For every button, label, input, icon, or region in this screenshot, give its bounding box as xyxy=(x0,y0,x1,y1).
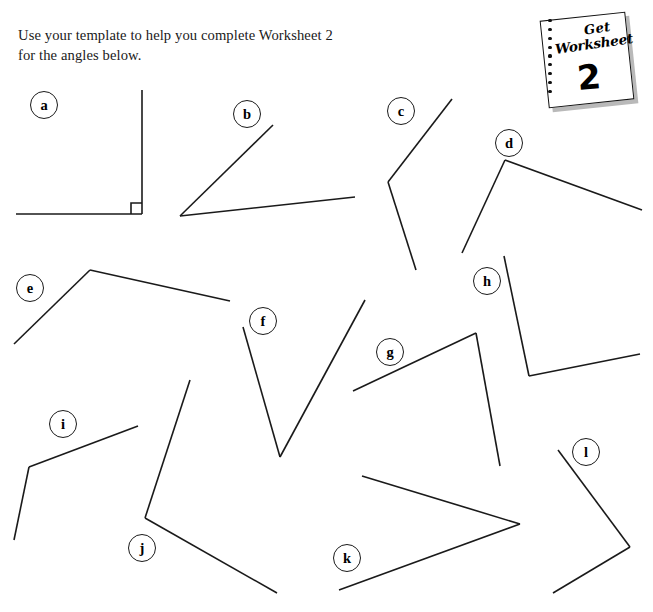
angle-k-ray-2 xyxy=(339,524,520,590)
angle-label-text: l xyxy=(584,445,588,460)
angle-label-text: f xyxy=(261,314,266,329)
angle-k-ray-1 xyxy=(362,476,520,524)
punch-hole xyxy=(548,37,551,40)
angle-label-i: i xyxy=(49,410,77,438)
angle-a-right-angle-marker xyxy=(131,203,142,214)
punch-hole xyxy=(548,28,551,31)
angle-label-h: h xyxy=(473,267,501,295)
angle-d-ray-1 xyxy=(462,160,505,253)
angle-label-g: g xyxy=(376,338,404,366)
angle-label-l: l xyxy=(572,438,600,466)
angle-label-a: a xyxy=(30,91,58,119)
punch-hole xyxy=(548,46,551,49)
get-worksheet-badge[interactable]: Get Worksheet 2 xyxy=(540,12,644,116)
angle-label-text: a xyxy=(40,98,47,113)
angle-figure-h xyxy=(504,256,640,376)
angle-label-text: b xyxy=(243,107,251,122)
punch-hole xyxy=(548,54,551,57)
badge-punch-holes xyxy=(546,19,554,93)
angle-d-ray-2 xyxy=(505,160,642,210)
angle-figure-b xyxy=(180,125,355,216)
angle-label-text: h xyxy=(483,274,491,289)
angle-label-j: j xyxy=(128,534,156,562)
angle-l-ray-2 xyxy=(553,547,630,593)
angle-label-text: e xyxy=(27,281,33,296)
angle-f-ray-2 xyxy=(280,300,365,457)
angle-label-e: e xyxy=(16,274,44,302)
angle-h-ray-2 xyxy=(529,354,640,376)
angle-figure-d xyxy=(462,160,642,253)
angle-b-ray-1 xyxy=(180,125,273,216)
angle-label-c: c xyxy=(387,97,415,125)
punch-hole xyxy=(548,63,551,66)
punch-hole xyxy=(548,90,551,93)
angle-label-text: d xyxy=(505,136,513,151)
angle-f-ray-1 xyxy=(243,327,280,457)
angle-figure-e xyxy=(14,270,230,344)
angle-label-k: k xyxy=(333,544,361,572)
angle-e-ray-2 xyxy=(90,270,230,301)
angle-label-text: c xyxy=(398,104,404,119)
angle-label-text: j xyxy=(140,541,145,556)
angle-figure-i xyxy=(14,426,138,540)
worksheet-page: Use your template to help you complete W… xyxy=(0,0,653,612)
angle-j-ray-1 xyxy=(145,380,190,518)
angle-c-ray-2 xyxy=(388,182,416,270)
angle-j-ray-2 xyxy=(145,518,277,593)
angle-label-f: f xyxy=(249,307,277,335)
angle-i-ray-1 xyxy=(29,426,138,467)
angle-h-ray-1 xyxy=(504,256,529,376)
badge-number: 2 xyxy=(557,57,622,96)
angle-label-text: g xyxy=(386,345,393,360)
angle-i-ray-2 xyxy=(14,467,29,540)
angle-figure-k xyxy=(339,476,520,590)
angle-figure-l xyxy=(553,450,630,593)
angle-label-text: i xyxy=(61,417,65,432)
angle-label-text: k xyxy=(343,551,351,566)
angle-figure-j xyxy=(145,380,277,593)
punch-hole xyxy=(548,19,551,22)
punch-hole xyxy=(548,72,551,75)
angle-g-ray-1 xyxy=(353,333,476,391)
angle-label-d: d xyxy=(495,129,523,157)
angle-label-b: b xyxy=(233,100,261,128)
angle-g-ray-2 xyxy=(476,333,500,466)
angle-b-ray-2 xyxy=(180,197,355,216)
punch-hole xyxy=(548,81,551,84)
angle-l-ray-1 xyxy=(558,450,630,547)
badge-script-text: Get Worksheet xyxy=(555,19,625,55)
